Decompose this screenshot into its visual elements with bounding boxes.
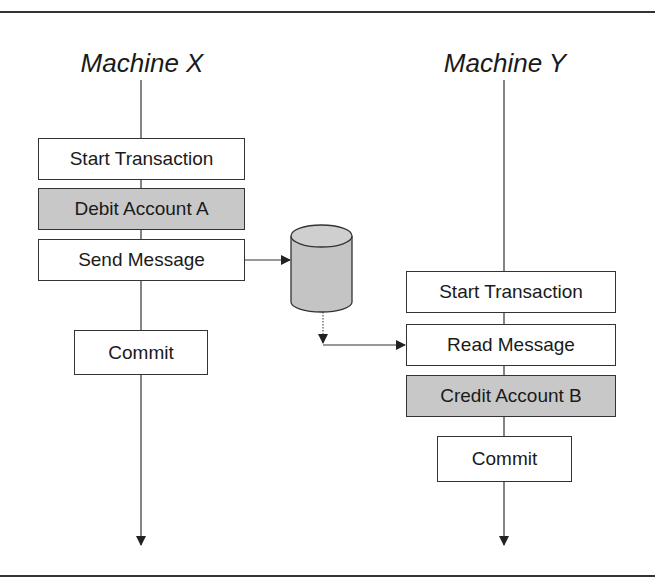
- machine-y-read-message: Read Message: [406, 324, 616, 366]
- machine-y-start-transaction: Start Transaction: [406, 271, 616, 313]
- machine-y-commit: Commit: [437, 436, 572, 482]
- machine-y-credit-account-b: Credit Account B: [406, 375, 616, 417]
- machine-x-send-message: Send Message: [38, 239, 245, 281]
- machine-x-start-transaction: Start Transaction: [38, 138, 245, 180]
- database-cylinder-icon: [291, 225, 352, 312]
- machine-x-commit: Commit: [74, 330, 208, 375]
- machine-x-debit-account-a: Debit Account A: [38, 188, 245, 230]
